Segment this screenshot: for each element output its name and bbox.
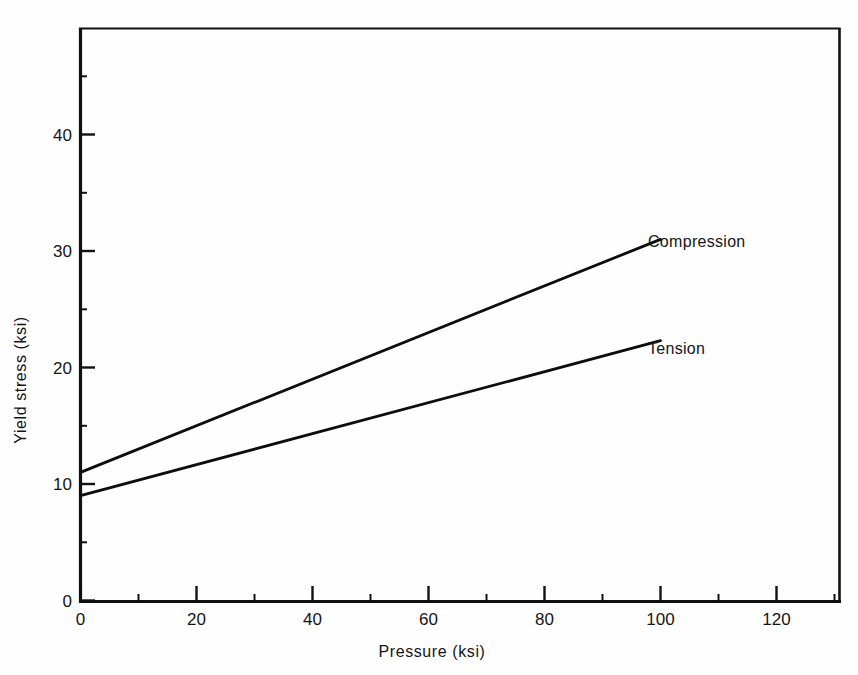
y-tick-label-0: 0 — [63, 592, 72, 611]
series-label-compression: Compression — [648, 233, 746, 250]
x-tick-label-0: 0 — [76, 610, 85, 629]
x-tick-label-80: 80 — [535, 610, 554, 629]
y-tick-label-20: 20 — [53, 359, 72, 378]
y-axis-tick-labels: 0 10 20 30 40 — [53, 126, 72, 611]
figure-canvas: 0 10 20 30 40 Yield stress (ksi) — [0, 0, 858, 675]
y-tick-label-30: 30 — [53, 242, 72, 261]
x-axis-tick-labels: 0 20 40 60 80 100 120 — [76, 610, 791, 629]
yield-stress-vs-pressure-chart: 0 10 20 30 40 Yield stress (ksi) — [0, 0, 858, 675]
x-tick-label-40: 40 — [303, 610, 322, 629]
x-tick-label-20: 20 — [187, 610, 206, 629]
data-line-compression — [81, 239, 661, 472]
data-series-layer — [81, 239, 661, 495]
x-tick-label-120: 120 — [762, 610, 790, 629]
y-axis-major-ticks — [80, 135, 95, 601]
series-label-tension: Tension — [648, 340, 705, 357]
y-axis-title: Yield stress (ksi) — [12, 316, 29, 444]
data-line-tension — [81, 341, 661, 496]
y-tick-label-10: 10 — [53, 475, 72, 494]
y-tick-label-40: 40 — [53, 126, 72, 145]
x-tick-label-100: 100 — [646, 610, 674, 629]
x-axis-title: Pressure (ksi) — [378, 643, 485, 660]
x-axis-major-ticks — [81, 586, 777, 601]
x-tick-label-60: 60 — [419, 610, 438, 629]
